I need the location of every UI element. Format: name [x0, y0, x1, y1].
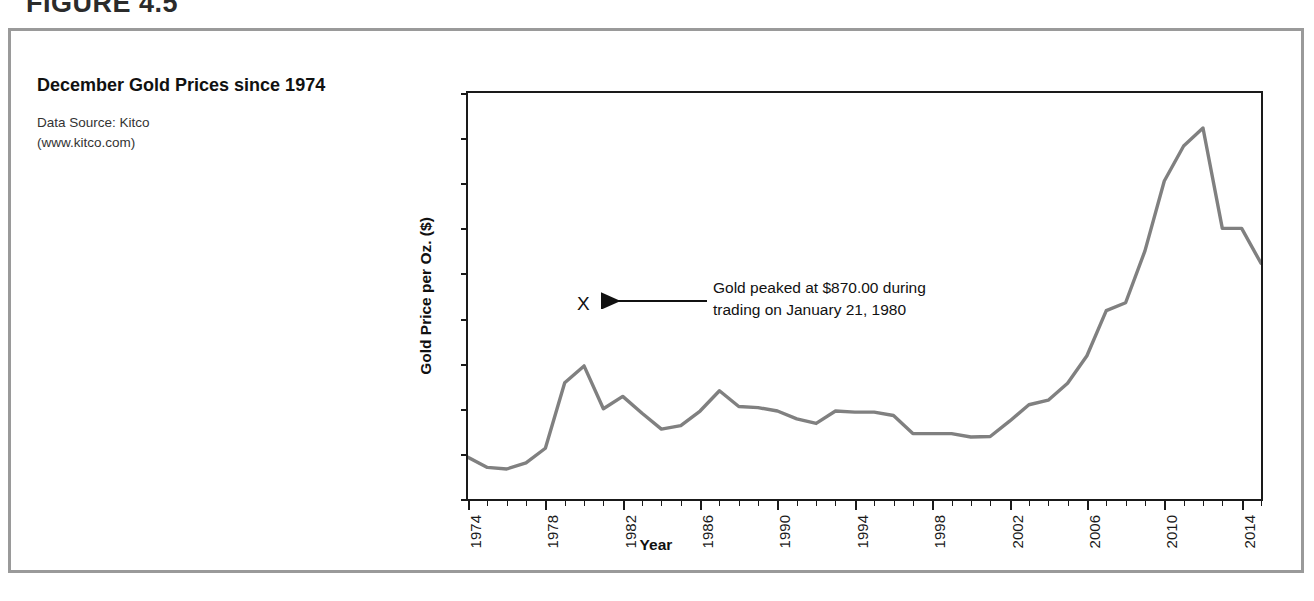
y-tick-mark — [461, 93, 468, 95]
x-tick-mark — [584, 499, 585, 506]
x-tick-mark — [642, 499, 643, 506]
y-tick-mark — [461, 409, 468, 411]
caption-block: December Gold Prices since 1974 Data Sou… — [37, 73, 327, 152]
x-tick-mark — [739, 499, 740, 506]
x-tick-mark — [545, 499, 547, 510]
x-tick-mark — [932, 499, 934, 510]
x-tick-mark — [894, 499, 895, 506]
x-tick-mark — [797, 499, 798, 506]
x-tick-label: 1974 — [467, 515, 484, 548]
x-tick-mark — [507, 499, 508, 506]
x-tick-mark — [1145, 499, 1146, 506]
peak-marker-x: X — [577, 293, 590, 315]
x-tick-label: 1978 — [544, 515, 561, 548]
x-tick-mark — [1242, 499, 1244, 510]
annotation-arrow-icon — [597, 289, 709, 309]
x-tick-mark — [1048, 499, 1049, 506]
x-tick-mark — [661, 499, 662, 506]
x-tick-label: 2014 — [1240, 515, 1257, 548]
x-tick-label: 2006 — [1085, 515, 1102, 548]
figure-heading: FIGURE 4.5 — [26, 0, 178, 19]
chart-title: December Gold Prices since 1974 — [37, 73, 327, 97]
x-tick-label: 1994 — [853, 515, 870, 548]
y-tick-mark — [461, 364, 468, 366]
x-tick-mark — [1126, 499, 1127, 506]
annotation-line-2: trading on January 21, 1980 — [713, 299, 1043, 321]
x-tick-mark — [855, 499, 857, 510]
y-tick-mark — [461, 454, 468, 456]
x-tick-mark — [1087, 499, 1089, 510]
x-tick-mark — [1106, 499, 1107, 506]
x-tick-mark — [874, 499, 875, 506]
x-tick-mark — [835, 499, 836, 506]
x-tick-mark — [719, 499, 720, 506]
x-tick-mark — [777, 499, 779, 510]
y-tick-mark — [461, 138, 468, 140]
x-tick-label: 1990 — [776, 515, 793, 548]
x-tick-label: 1986 — [699, 515, 716, 548]
x-tick-mark — [487, 499, 488, 506]
y-tick-mark — [461, 319, 468, 321]
x-tick-mark — [1029, 499, 1030, 506]
x-tick-mark — [623, 499, 625, 510]
annotation-text: Gold peaked at $870.00 during trading on… — [713, 277, 1043, 322]
x-tick-mark — [1203, 499, 1204, 506]
data-source: Data Source: Kitco (www.kitco.com) — [37, 113, 327, 152]
x-tick-mark — [565, 499, 566, 506]
x-tick-mark — [1261, 499, 1262, 506]
x-tick-mark — [681, 499, 682, 506]
figure-panel: December Gold Prices since 1974 Data Sou… — [8, 28, 1304, 573]
x-tick-mark — [468, 499, 470, 510]
y-tick-mark — [461, 499, 468, 501]
y-axis-title: Gold Price per Oz. ($) — [417, 217, 435, 375]
x-tick-label: 2002 — [1008, 515, 1025, 548]
x-tick-mark — [526, 499, 527, 506]
x-tick-mark — [990, 499, 991, 506]
y-tick-mark — [461, 183, 468, 185]
x-tick-mark — [1164, 499, 1166, 510]
data-source-line-2: (www.kitco.com) — [37, 133, 327, 153]
x-tick-mark — [816, 499, 817, 506]
x-tick-label: 2010 — [1163, 515, 1180, 548]
x-tick-mark — [971, 499, 972, 506]
x-tick-label: 1998 — [931, 515, 948, 548]
x-axis-title: Year — [640, 536, 673, 554]
x-tick-mark — [952, 499, 953, 506]
x-tick-label: 1982 — [621, 515, 638, 548]
x-tick-mark — [603, 499, 604, 506]
y-tick-mark — [461, 273, 468, 275]
annotation-line-1: Gold peaked at $870.00 during — [713, 277, 1043, 299]
x-tick-mark — [1222, 499, 1223, 506]
x-tick-mark — [1068, 499, 1069, 506]
y-tick-mark — [461, 228, 468, 230]
x-tick-mark — [913, 499, 914, 506]
x-tick-mark — [1010, 499, 1012, 510]
x-tick-mark — [700, 499, 702, 510]
x-tick-mark — [1184, 499, 1185, 506]
x-tick-mark — [758, 499, 759, 506]
data-source-line-1: Data Source: Kitco — [37, 113, 327, 133]
